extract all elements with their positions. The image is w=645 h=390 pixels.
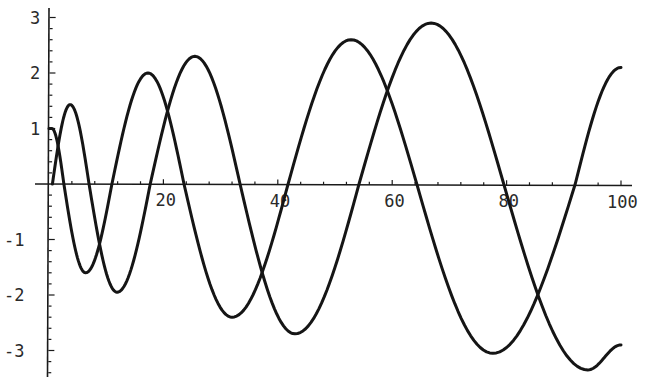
x-tick-label: 40 [270, 191, 290, 211]
tick-marks [48, 18, 621, 373]
curve-a-line [49, 40, 621, 354]
x-tick-label: 100 [607, 192, 638, 212]
y-axis [48, 8, 50, 377]
y-tick-label: -1 [4, 230, 24, 250]
curve-b-line [52, 23, 621, 370]
y-tick-label: -2 [4, 285, 24, 305]
x-axis [35, 184, 632, 186]
x-tick-label: 60 [384, 191, 404, 211]
y-tick-label: 3 [30, 8, 40, 28]
line-chart: 20406080100321-1-2-3 [0, 0, 645, 390]
plot-curves [49, 23, 621, 370]
y-tick-label: -3 [4, 341, 24, 361]
y-tick-label: 1 [30, 119, 40, 139]
y-tick-label: 2 [30, 63, 40, 83]
x-tick-label: 20 [155, 190, 175, 210]
axes [35, 8, 632, 377]
